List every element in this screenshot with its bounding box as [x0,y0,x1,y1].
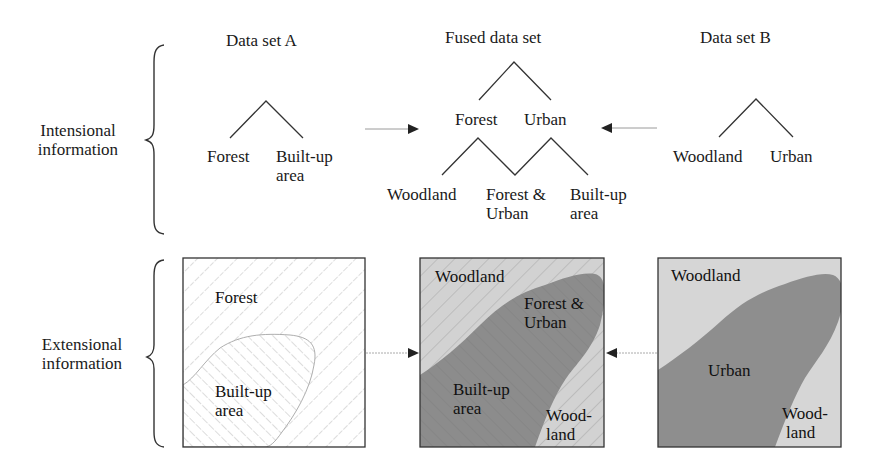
arrow-b-to-fused-top [601,123,657,133]
title-fused-data-set: Fused data set [445,28,541,47]
hier-a-builtup-line1: Built-up [276,147,333,166]
map-a-label-builtup: Built-up area [215,382,272,420]
hier-fused-urban: Urban [524,110,566,129]
hier-fused-forest-urban-line2: Urban [486,204,546,223]
arrow-a-to-fused-top [365,124,419,134]
map-b-label-woodland-2: Wood- land [782,404,828,442]
brace-intensional [146,45,164,234]
map-a-label-builtup-line2: area [215,401,272,420]
row-label-extensional: Extensional information [22,335,142,373]
arrow-a-to-fused-bottom [366,348,419,358]
map-a [183,258,365,447]
brace-extensional [147,260,164,447]
map-fused-label-builtup: Built-up area [453,380,510,418]
map-fused-label-builtup-line1: Built-up [453,380,510,399]
map-fused-label-forest-urban-line2: Urban [524,313,584,332]
hier-fused-forest: Forest [455,110,498,129]
row-label-intensional-line1: Intensional [18,121,138,140]
row-label-intensional: Intensional information [18,121,138,159]
map-b-label-woodland-2-line1: Wood- [782,404,828,423]
map-b-label-woodland: Woodland [671,266,740,285]
hier-fused-woodland: Woodland [387,185,456,204]
hier-b-woodland: Woodland [673,147,742,166]
hier-fused-builtup-line1: Built-up [570,185,627,204]
map-fused-label-forest-urban: Forest & Urban [524,294,584,332]
hier-b-urban: Urban [770,147,812,166]
hier-a-builtup-line2: area [276,166,333,185]
map-fused-label-forest-urban-line1: Forest & [524,294,584,313]
map-fused-label-builtup-line2: area [453,399,510,418]
row-label-intensional-line2: information [18,140,138,159]
hier-fused-builtup-line2: area [570,204,627,223]
map-fused-label-woodland: Woodland [435,267,504,286]
hierarchy-b-lines [719,99,793,137]
arrow-b-to-fused-bottom [606,348,657,358]
hier-a-forest: Forest [207,147,250,166]
row-label-extensional-line2: information [22,354,142,373]
row-label-extensional-line1: Extensional [22,335,142,354]
map-a-label-builtup-line1: Built-up [215,382,272,401]
hier-fused-forest-urban-line1: Forest & [486,185,546,204]
map-fused-label-woodland-2-line1: Wood- [546,406,592,425]
map-b-label-woodland-2-line2: land [782,423,828,442]
hierarchy-a-lines [230,101,303,138]
map-fused-label-woodland-2-line2: land [546,425,592,444]
map-b-label-urban: Urban [708,361,750,380]
diagram-graphics [0,0,881,472]
hier-a-builtup: Built-up area [276,147,333,185]
hier-fused-builtup: Built-up area [570,185,627,223]
map-a-label-forest: Forest [215,288,258,307]
title-data-set-b: Data set B [700,28,771,47]
map-fused-label-woodland-2: Wood- land [546,406,592,444]
title-data-set-a: Data set A [226,31,297,50]
hier-fused-forest-urban: Forest & Urban [486,185,546,223]
